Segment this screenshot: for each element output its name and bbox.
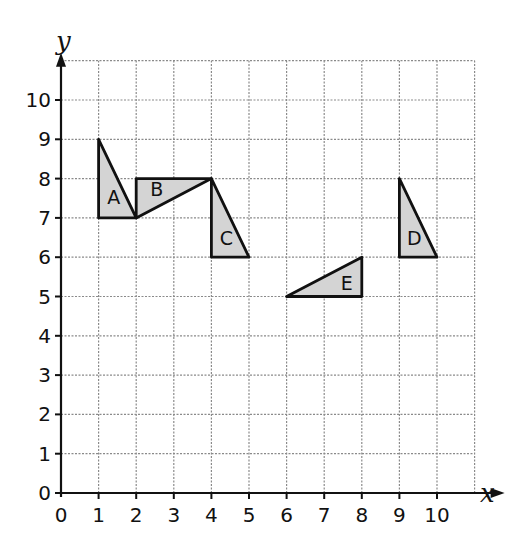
x-tick-label: 8	[355, 503, 368, 527]
triangle-label: E	[341, 272, 353, 294]
triangle-a: A	[99, 139, 137, 218]
x-tick-label: 7	[318, 503, 331, 527]
x-tick-label: 4	[205, 503, 218, 527]
y-tick-label: 0	[38, 481, 51, 505]
y-tick-label: 5	[38, 285, 51, 309]
x-axis-title: x	[480, 478, 495, 508]
triangle-label: C	[220, 227, 233, 249]
x-tick-label: 1	[92, 503, 105, 527]
y-tick-label: 2	[38, 402, 51, 426]
y-tick-label: 10	[26, 88, 51, 112]
triangle-label: D	[407, 227, 422, 249]
x-tick-label: 9	[393, 503, 406, 527]
x-tick-label: 0	[55, 503, 68, 527]
x-tick-label: 6	[280, 503, 293, 527]
x-tick-label: 10	[424, 503, 449, 527]
x-tick-label: 5	[243, 503, 256, 527]
y-tick-label: 6	[38, 245, 51, 269]
triangle-e: E	[287, 257, 362, 296]
x-tick-label: 2	[130, 503, 143, 527]
tick-labels: 012345678910012345678910	[26, 88, 450, 527]
coordinate-grid-diagram: 012345678910012345678910 ABCDE x y	[0, 0, 513, 552]
grid-lines	[61, 61, 475, 493]
y-tick-label: 7	[38, 206, 51, 230]
triangle-label: A	[107, 186, 120, 208]
y-tick-label: 9	[38, 127, 51, 151]
y-tick-label: 4	[38, 324, 51, 348]
y-tick-label: 1	[38, 442, 51, 466]
x-tick-label: 3	[167, 503, 180, 527]
y-tick-label: 3	[38, 363, 51, 387]
triangle-d: D	[399, 179, 437, 258]
triangle-label: B	[150, 178, 163, 200]
y-tick-label: 8	[38, 167, 51, 191]
y-axis-title: y	[55, 26, 71, 56]
